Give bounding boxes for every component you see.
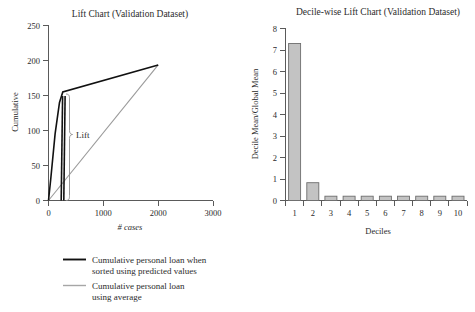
lift-x-ticklabel-0: 0 [46,208,50,218]
decile-y-ticklabel-1: 1 [273,174,277,184]
lift-chart-y-axis-label: Cumulative [10,92,20,132]
lift-x-ticklabel-3000: 3000 [205,208,222,218]
lift-y-ticklabel-100: 100 [27,126,40,136]
lift-y-ticklabel-250: 250 [27,21,40,31]
decile-y-ticklabel-2: 2 [273,153,277,163]
bar-decile-2 [307,183,319,201]
bar-decile-3 [325,196,337,200]
decile-xlabel-8: 8 [420,208,424,218]
figure-root: Lift Chart (Validation Dataset) 250 200 … [0,0,475,312]
legend-label-average-line1: Cumulative personal loan [92,281,185,291]
decile-y-ticklabel-6: 6 [273,67,277,77]
decile-chart-x-ticks [286,201,468,206]
decile-chart-panel: Decile-wise Lift Chart (Validation Datas… [250,7,467,236]
decile-xlabel-4: 4 [347,208,352,218]
lift-cutoff-line-a [61,96,62,201]
decile-xlabel-10: 10 [454,208,463,218]
decile-bars [289,44,464,201]
bar-decile-1 [289,44,301,201]
lift-y-ticklabel-150: 150 [27,91,40,101]
lift-chart-title: Lift Chart (Validation Dataset) [72,9,188,20]
lift-chart-y-ticks: 250 200 150 100 50 0 [27,21,48,206]
decile-xlabel-1: 1 [292,208,296,218]
decile-xlabel-6: 6 [383,208,387,218]
decile-xlabel-7: 7 [401,208,405,218]
decile-xlabel-2: 2 [311,208,315,218]
decile-y-ticklabel-8: 8 [273,24,277,34]
decile-xlabel-9: 9 [438,208,442,218]
lift-bracket [66,94,73,201]
decile-chart-category-labels: 1 2 3 4 5 6 7 8 9 10 [292,208,462,218]
lift-y-ticklabel-50: 50 [32,161,41,171]
legend-label-average-line2: using average [92,292,142,302]
bar-decile-5 [361,196,373,200]
decile-chart-title: Decile-wise Lift Chart (Validation Datas… [296,7,460,18]
legend-label-predicted-line2: sorted using predicted values [92,266,197,276]
lift-chart-x-axis-label: # cases [118,222,143,232]
bar-decile-7 [398,196,410,200]
decile-y-ticklabel-7: 7 [273,45,277,55]
figure-canvas: Lift Chart (Validation Dataset) 250 200 … [0,0,475,312]
lift-chart-x-ticks: 0 1000 2000 3000 [46,201,221,219]
lift-y-ticklabel-0: 0 [36,196,40,206]
lift-y-ticklabel-200: 200 [27,56,40,66]
decile-chart-y-ticks: 8 7 6 5 4 3 2 1 0 [273,24,286,206]
decile-chart-x-axis-label: Deciles [365,226,391,236]
decile-chart-y-axis-label: Decile Mean/Global Mean [250,68,260,159]
bar-decile-6 [379,196,391,200]
legend-label-predicted-line1: Cumulative personal loan when [92,255,207,265]
lift-bracket-label: Lift [76,130,90,140]
decile-y-ticklabel-5: 5 [273,88,277,98]
decile-y-ticklabel-3: 3 [273,131,277,141]
decile-xlabel-3: 3 [329,208,333,218]
bar-decile-4 [343,196,355,200]
lift-chart-panel: Lift Chart (Validation Dataset) 250 200 … [10,9,222,232]
lift-x-ticklabel-1000: 1000 [95,208,112,218]
decile-y-ticklabel-0: 0 [273,196,277,206]
legend: Cumulative personal loan when sorted usi… [63,255,207,302]
decile-xlabel-5: 5 [365,208,369,218]
lift-cutoff-line-b [64,96,65,201]
bar-decile-8 [416,196,428,200]
lift-x-ticklabel-2000: 2000 [150,208,167,218]
bar-decile-9 [434,196,446,200]
decile-y-ticklabel-4: 4 [273,110,278,120]
bar-decile-10 [452,196,464,200]
